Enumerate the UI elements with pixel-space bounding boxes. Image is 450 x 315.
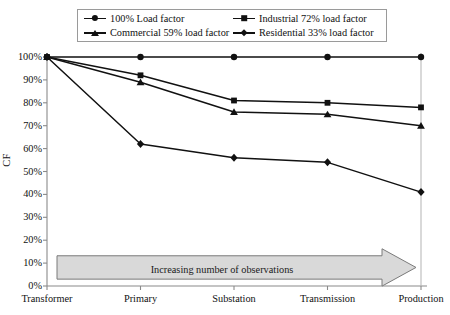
capacity-factor-line-chart: 100% Load factor Industrial 72% load fac… [0,0,450,315]
observations-arrow-label: Increasing number of observations [57,264,387,275]
